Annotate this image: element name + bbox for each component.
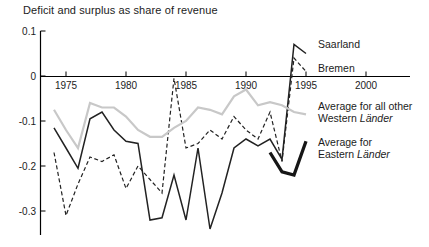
western-average-label: Average for all other [318, 100, 413, 112]
eastern-average-label: Eastern Länder [318, 148, 390, 160]
western-average-label: Western Länder [318, 112, 393, 124]
saarland-label: Saarland [318, 38, 360, 50]
y-tick-label: -0.1 [19, 116, 37, 127]
deficit-surplus-chart: Deficit and surplus as share of revenue … [0, 0, 429, 247]
eastern-average-line [270, 141, 306, 175]
x-tick-label: 2000 [355, 80, 378, 91]
x-tick-label: 1985 [175, 80, 198, 91]
x-tick-label: 1975 [55, 80, 78, 91]
saarland-line [54, 45, 306, 230]
x-tick-label: 1995 [295, 80, 318, 91]
x-tick-label: 1980 [115, 80, 138, 91]
chart-svg: 0.10-0.1-0.2-0.3197519801985199019952000… [0, 0, 429, 247]
y-tick-label: -0.3 [19, 206, 37, 217]
y-tick-label: 0.1 [22, 26, 36, 37]
bremen-label: Bremen [318, 62, 355, 74]
y-tick-label: 0 [30, 71, 36, 82]
y-tick-label: -0.2 [19, 161, 37, 172]
eastern-average-label: Average for [318, 136, 373, 148]
